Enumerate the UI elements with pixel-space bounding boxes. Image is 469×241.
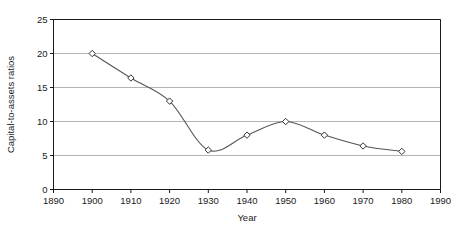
x-tick-label-1920: 1920 [159, 195, 180, 206]
x-tick-label-1900: 1900 [82, 195, 103, 206]
x-tick-label-1890: 1890 [43, 195, 64, 206]
x-tick-label-1950: 1950 [275, 195, 296, 206]
x-tick-label-1990: 1990 [430, 195, 451, 206]
y-tick-label-25: 25 [37, 14, 48, 25]
x-tick-label-1970: 1970 [353, 195, 374, 206]
x-tick-label-1980: 1980 [391, 195, 412, 206]
x-tick-label-1910: 1910 [120, 195, 141, 206]
y-tick-label-10: 10 [37, 116, 48, 127]
y-tick-label-5: 5 [42, 150, 47, 161]
y-tick-label-0: 0 [42, 184, 47, 195]
x-tick-label-1940: 1940 [236, 195, 257, 206]
line-chart: 1890190019101920193019401950196019701980… [0, 0, 469, 241]
chart-container: 1890190019101920193019401950196019701980… [0, 0, 469, 241]
x-axis-title: Year [237, 212, 256, 223]
y-tick-label-20: 20 [37, 48, 48, 59]
x-tick-label-1930: 1930 [198, 195, 219, 206]
y-tick-label-15: 15 [37, 82, 48, 93]
x-tick-label-1960: 1960 [314, 195, 335, 206]
y-axis-title: Capital-to-assets ratios [5, 56, 16, 153]
